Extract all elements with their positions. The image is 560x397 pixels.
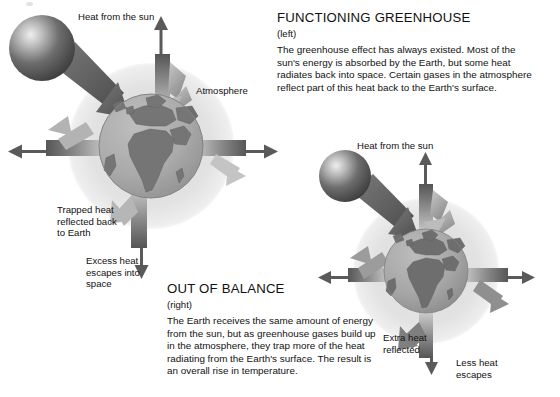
label-trapped-heat-line-1: Trapped heat [57,204,117,216]
sun-left [9,15,75,81]
label-less-heat-line-2: escapes [456,369,498,381]
label-excess-heat-line-1: Excess heat [86,255,140,267]
label-extra-heat-line-2: reflected [383,344,427,356]
panel-out-of-balance: OUT OF BALANCE (right) The Earth receive… [167,281,379,378]
label-excess-heat-line-2: escapes into [86,267,140,279]
figure-canvas: Heat from the sun Atmosphere Trapped hea… [0,0,560,397]
earth-globe-left [99,94,203,198]
label-less-heat-escapes: Less heat escapes [456,357,498,380]
panel-body-functioning-greenhouse: The greenhouse effect has always existed… [277,44,539,94]
label-heat-from-sun-right: Heat from the sun [357,140,433,152]
label-heat-from-sun-left: Heat from the sun [78,11,154,23]
panel-body-out-of-balance: The Earth receives the same amount of en… [167,315,379,378]
sun-right [319,150,371,202]
panel-heading-out-of-balance: OUT OF BALANCE [167,281,379,296]
label-extra-heat-reflected: Extra heat reflected [383,332,427,355]
panel-subhead-functioning-greenhouse: (left) [277,28,539,39]
diagram-left-group [8,15,278,279]
label-excess-heat: Excess heat escapes into space [86,255,140,290]
label-atmosphere: Atmosphere [196,85,248,97]
escape-arrow-up-right [419,152,432,184]
panel-heading-functioning-greenhouse: FUNCTIONING GREENHOUSE [277,10,539,25]
label-trapped-heat-line-3: to Earth [57,227,117,239]
label-excess-heat-line-3: space [86,278,140,290]
label-trapped-heat-line-2: reflected back [57,216,117,228]
escape-arrow-up-left [154,16,168,54]
escape-arrow-right-right [505,271,535,284]
escape-arrow-left-left [8,145,46,159]
label-trapped-heat: Trapped heat reflected back to Earth [57,204,117,239]
label-less-heat-line-1: Less heat [456,357,498,369]
label-extra-heat-line-1: Extra heat [383,332,427,344]
panel-functioning-greenhouse: FUNCTIONING GREENHOUSE (left) The greenh… [277,10,539,94]
panel-subhead-out-of-balance: (right) [167,299,379,310]
earth-globe-right [384,229,468,313]
